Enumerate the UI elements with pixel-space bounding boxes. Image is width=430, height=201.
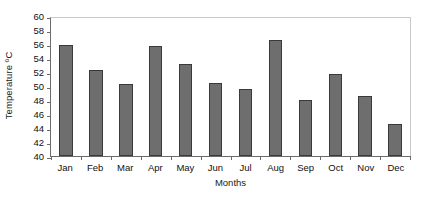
bar-mar[interactable] bbox=[119, 84, 132, 156]
y-axis-title: Temperature ºC bbox=[0, 0, 18, 170]
y-axis-tick-label: 50 bbox=[33, 82, 44, 92]
x-axis-tick-mark bbox=[260, 156, 261, 160]
bar-series bbox=[51, 18, 410, 156]
y-axis-tick-label: 56 bbox=[33, 40, 44, 50]
y-axis-title-label: Temperature ºC bbox=[4, 51, 15, 119]
bar-slot bbox=[81, 18, 111, 156]
y-axis-tick-label: 46 bbox=[33, 110, 44, 120]
plot-area bbox=[50, 17, 411, 157]
bar-jan[interactable] bbox=[59, 45, 72, 156]
y-axis-tick-mark bbox=[47, 32, 51, 33]
bar-feb[interactable] bbox=[89, 70, 102, 156]
y-axis-tick-label: 54 bbox=[33, 54, 44, 64]
y-axis-tick-label: 60 bbox=[33, 12, 44, 22]
bar-jun[interactable] bbox=[209, 83, 222, 156]
bar-may[interactable] bbox=[179, 64, 192, 156]
temperature-by-month-bar-chart: Temperature ºC 4042444648505254565860 Ja… bbox=[0, 0, 430, 201]
bar-apr[interactable] bbox=[149, 46, 162, 156]
x-axis-tick-label: Mar bbox=[110, 161, 140, 175]
bar-slot bbox=[171, 18, 201, 156]
bar-slot bbox=[380, 18, 410, 156]
y-axis-tick-label: 48 bbox=[33, 96, 44, 106]
bar-slot bbox=[350, 18, 380, 156]
bar-slot bbox=[141, 18, 171, 156]
x-axis-tick-mark bbox=[410, 156, 411, 160]
x-axis-tick-label: May bbox=[170, 161, 200, 175]
x-axis-tick-label: Jan bbox=[50, 161, 80, 175]
x-axis-tick-mark bbox=[350, 156, 351, 160]
x-axis-tick-label: Jul bbox=[230, 161, 260, 175]
y-axis-tick-mark bbox=[47, 60, 51, 61]
x-axis-tick-mark bbox=[320, 156, 321, 160]
bar-slot bbox=[51, 18, 81, 156]
bar-dec[interactable] bbox=[388, 124, 401, 156]
y-axis-tick-labels: 4042444648505254565860 bbox=[18, 17, 48, 157]
y-axis-tick-mark bbox=[47, 46, 51, 47]
x-axis-tick-labels: JanFebMarAprMayJunJulAugSepOctNovDec bbox=[50, 161, 411, 175]
y-axis-tick-mark bbox=[47, 88, 51, 89]
x-axis-tick-label: Jun bbox=[200, 161, 230, 175]
y-axis-tick-label: 58 bbox=[33, 26, 44, 36]
y-axis-tick-label: 42 bbox=[33, 138, 44, 148]
x-axis-tick-mark bbox=[290, 156, 291, 160]
y-axis-tick-mark bbox=[47, 130, 51, 131]
y-axis-tick-mark bbox=[47, 18, 51, 19]
x-axis-tick-label: Feb bbox=[80, 161, 110, 175]
y-axis-tick-label: 40 bbox=[33, 152, 44, 162]
y-axis-tick-mark bbox=[47, 74, 51, 75]
x-axis-tick-label: Apr bbox=[140, 161, 170, 175]
x-axis-tick-mark bbox=[201, 156, 202, 160]
x-axis-tick-label: Sep bbox=[291, 161, 321, 175]
y-axis-tick-mark bbox=[47, 116, 51, 117]
x-axis-tick-mark bbox=[111, 156, 112, 160]
bar-slot bbox=[290, 18, 320, 156]
bar-nov[interactable] bbox=[358, 96, 371, 156]
x-axis-tick-mark bbox=[141, 156, 142, 160]
bar-slot bbox=[111, 18, 141, 156]
x-axis-tick-mark bbox=[171, 156, 172, 160]
bar-slot bbox=[201, 18, 231, 156]
bar-oct[interactable] bbox=[329, 74, 342, 156]
x-axis-tick-label: Oct bbox=[321, 161, 351, 175]
y-axis-tick-label: 52 bbox=[33, 68, 44, 78]
bar-sep[interactable] bbox=[299, 100, 312, 156]
x-axis-tick-mark bbox=[51, 156, 52, 160]
x-axis-title: Months bbox=[50, 177, 411, 188]
bar-slot bbox=[320, 18, 350, 156]
x-axis-tick-mark bbox=[231, 156, 232, 160]
bar-slot bbox=[231, 18, 261, 156]
x-axis-tick-label: Dec bbox=[381, 161, 411, 175]
y-axis-tick-label: 44 bbox=[33, 124, 44, 134]
x-axis-tick-mark bbox=[380, 156, 381, 160]
x-axis-tick-label: Aug bbox=[261, 161, 291, 175]
bar-jul[interactable] bbox=[239, 89, 252, 156]
bar-aug[interactable] bbox=[269, 40, 282, 156]
bar-slot bbox=[260, 18, 290, 156]
y-axis-tick-mark bbox=[47, 102, 51, 103]
x-axis-tick-mark bbox=[81, 156, 82, 160]
y-axis-tick-mark bbox=[47, 144, 51, 145]
x-axis-tick-label: Nov bbox=[351, 161, 381, 175]
